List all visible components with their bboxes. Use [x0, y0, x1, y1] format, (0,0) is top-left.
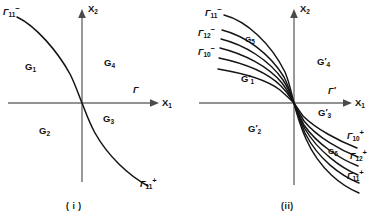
x-axis-label: X1: [162, 98, 172, 109]
panel-ii-caption: (ii): [281, 201, 294, 211]
panel-i-caption: ( i ): [66, 201, 82, 211]
bundle-label-g6: G6: [328, 148, 338, 157]
region-label-g1: G1: [25, 62, 36, 73]
panel-i: Γ11− Γ11+ G1 G4 G2 G3 Γ X1 X2 ( i ): [0, 0, 191, 219]
region-label-g3-prime: G′3: [318, 108, 331, 120]
curve-label-gamma-11-minus: Γ11−: [205, 6, 222, 19]
figure-container: Γ11− Γ11+ G1 G4 G2 G3 Γ X1 X2 ( i ): [0, 0, 383, 219]
y-axis-arrowhead: [290, 9, 298, 18]
x-axis-label: X1: [355, 98, 365, 109]
curve-gamma-12: [222, 30, 359, 183]
x-axis-gamma-prime-label: Γ′: [328, 86, 336, 96]
y-axis-label: X2: [88, 4, 98, 15]
bundle-label-g5: G5: [245, 36, 255, 45]
region-label-g3: G3: [103, 114, 114, 125]
x-axis-arrowhead: [343, 99, 352, 107]
curve-label-gamma-11-plus: Γ11+: [347, 169, 364, 182]
curve-label-gamma-12-minus: Γ12−: [198, 26, 215, 39]
curve-label-gamma-12-plus: Γ12+: [350, 149, 367, 162]
x-axis-arrowhead: [150, 99, 159, 107]
x-axis-gamma-label: Γ: [133, 86, 139, 95]
curve-label-gamma-11-plus: Γ11+: [140, 177, 157, 190]
region-label-g1-prime: G′1: [241, 74, 254, 86]
panel-ii: Γ11− Γ12− Γ10− Γ10+ Γ12+ Γ11+ G5 G6 G′1: [191, 0, 383, 219]
panel-ii-graphics: [191, 0, 383, 219]
region-label-g2: G2: [39, 126, 50, 137]
region-label-g4: G4: [104, 58, 115, 69]
curve-label-gamma-11-minus: Γ11−: [3, 5, 20, 18]
curve-bundle: [218, 15, 359, 193]
curve-label-gamma-10-minus: Γ10−: [198, 45, 215, 58]
y-axis-label: X2: [300, 4, 310, 15]
region-label-g2-prime: G′2: [248, 124, 261, 136]
region-label-g4-prime: G′4: [317, 57, 330, 69]
y-axis-arrowhead: [78, 9, 86, 18]
curve-label-gamma-10-plus: Γ10+: [347, 129, 364, 142]
panel-i-graphics: [0, 0, 191, 219]
